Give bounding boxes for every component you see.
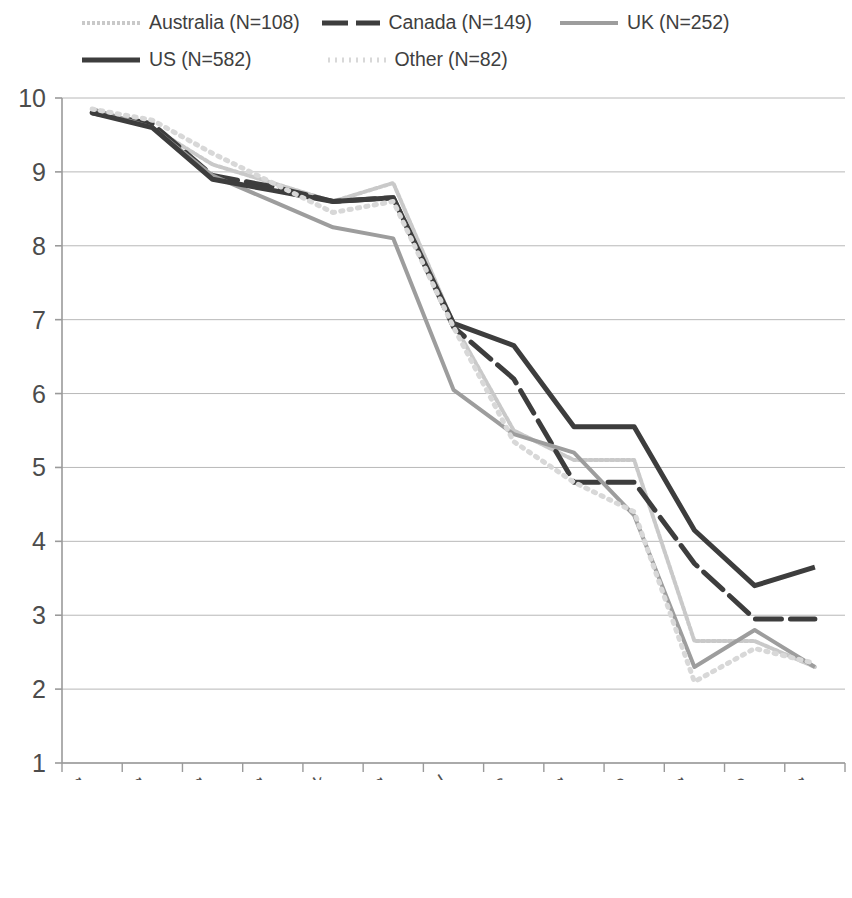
legend-item-canada[interactable]: Canada (N=149)	[322, 11, 532, 34]
x-tick-marks	[62, 763, 845, 772]
legend-row-2: US (N=582) Other (N=82)	[82, 41, 842, 78]
legend-item-us[interactable]: US (N=582)	[82, 48, 252, 71]
series-line-other	[92, 109, 815, 682]
x-category-labels: ListeningQuestioningReflectingSummarisin…	[13, 770, 811, 780]
x-category-label: Giving feedback	[204, 770, 330, 780]
y-tick-label: 9	[32, 158, 46, 186]
series-line-uk	[92, 109, 815, 667]
x-category-label: Providing ideas	[390, 771, 510, 780]
line-chart-figure: Australia (N=108) Canada (N=149) UK (N=2…	[0, 0, 852, 898]
legend-item-australia[interactable]: Australia (N=108)	[82, 11, 300, 34]
legend-label-canada: Canada (N=149)	[389, 11, 532, 34]
legend-label-australia: Australia (N=108)	[149, 11, 300, 34]
y-tick-labels: 10987654321	[18, 84, 62, 777]
x-category-label: Giving advice	[644, 771, 751, 780]
series-lines	[92, 109, 815, 682]
y-tick-label: 2	[32, 675, 46, 703]
series-line-us	[92, 113, 815, 586]
x-category-label: Summarising	[165, 771, 269, 780]
legend-swatch-us-icon	[82, 53, 140, 67]
legend-item-other[interactable]: Other (N=82)	[328, 48, 508, 71]
x-category-label: Listening	[13, 771, 88, 780]
y-tick-label: 5	[32, 453, 46, 481]
y-tick-label: 3	[32, 601, 46, 629]
plot-svg: 10987654321 ListeningQuestioningReflecti…	[0, 80, 852, 780]
legend-row-1: Australia (N=108) Canada (N=149) UK (N=2…	[82, 4, 842, 41]
legend-swatch-other-icon	[328, 53, 386, 67]
legend-swatch-uk-icon	[560, 16, 618, 30]
y-tick-label: 8	[32, 232, 46, 260]
legend-label-uk: UK (N=252)	[627, 11, 730, 34]
legend-label-other: Other (N=82)	[395, 48, 508, 71]
legend-swatch-canada-icon	[322, 16, 380, 30]
chart-plot-area: 10987654321 ListeningQuestioningReflecti…	[0, 80, 852, 780]
legend-swatch-australia-icon	[82, 16, 140, 30]
chart-legend: Australia (N=108) Canada (N=149) UK (N=2…	[82, 4, 842, 78]
y-tick-label: 1	[32, 749, 46, 777]
x-category-label: Paraphrasing	[283, 771, 389, 780]
legend-item-uk[interactable]: UK (N=252)	[560, 11, 730, 34]
x-category-label: Telling	[754, 771, 811, 780]
y-tick-label: 6	[32, 380, 46, 408]
legend-label-us: US (N=582)	[149, 48, 252, 71]
y-tick-label: 4	[32, 527, 46, 555]
y-tick-label: 7	[32, 306, 46, 334]
y-tick-label: 10	[18, 84, 46, 112]
